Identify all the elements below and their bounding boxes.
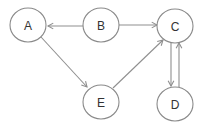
edge-e-to-c <box>113 40 163 88</box>
edge-d-to-c <box>176 43 182 87</box>
nodes-layer: ABCED <box>10 8 193 121</box>
node-a: A <box>10 8 46 42</box>
edge-c-to-d <box>168 43 174 86</box>
node-e: E <box>83 85 119 119</box>
edge-b-to-c <box>119 22 157 28</box>
node-d: D <box>157 87 193 121</box>
edge-b-to-a <box>48 23 83 29</box>
node-label: B <box>97 19 105 33</box>
node-label: A <box>24 19 32 33</box>
edge-a-to-e <box>41 37 87 87</box>
node-label: C <box>171 20 180 34</box>
node-label: D <box>171 98 180 112</box>
node-label: E <box>97 96 105 110</box>
edge-line <box>113 40 163 88</box>
edge-line <box>41 37 87 87</box>
node-b: B <box>83 8 119 42</box>
node-c: C <box>157 9 193 43</box>
directed-graph: ABCED <box>0 0 205 126</box>
